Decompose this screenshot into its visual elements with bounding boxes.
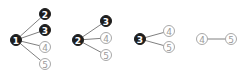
edge-1-2 bbox=[20, 18, 41, 37]
node-2-filled: 2 bbox=[40, 9, 51, 20]
node-5-open: 5 bbox=[226, 34, 237, 45]
node-5-open: 5 bbox=[101, 50, 112, 61]
edges bbox=[20, 18, 225, 61]
node-4-open: 4 bbox=[197, 34, 208, 45]
node-label: 3 bbox=[137, 35, 143, 45]
node-5-open: 5 bbox=[40, 59, 51, 70]
nodes: 12345234534545 bbox=[11, 9, 237, 70]
node-label: 5 bbox=[166, 43, 172, 53]
edge-3-4 bbox=[145, 32, 163, 37]
node-1-filled: 1 bbox=[11, 35, 22, 46]
node-4-open: 4 bbox=[101, 33, 112, 44]
edge-1-5 bbox=[20, 44, 41, 61]
node-4-open: 4 bbox=[164, 26, 175, 37]
node-label: 4 bbox=[166, 27, 172, 37]
node-label: 4 bbox=[103, 34, 109, 44]
node-5-open: 5 bbox=[164, 42, 175, 53]
tree-diagram: 12345234534545 bbox=[0, 0, 245, 75]
edge-2-3 bbox=[83, 24, 102, 37]
node-3-filled: 3 bbox=[40, 25, 51, 36]
edge-2-5 bbox=[83, 43, 101, 53]
node-label: 2 bbox=[42, 10, 48, 20]
node-label: 5 bbox=[228, 35, 234, 45]
node-4-open: 4 bbox=[40, 42, 51, 53]
node-label: 5 bbox=[42, 60, 48, 70]
edge-3-5 bbox=[145, 40, 163, 45]
edge-2-4 bbox=[83, 38, 100, 39]
node-label: 3 bbox=[42, 26, 48, 36]
node-3-filled: 3 bbox=[101, 16, 112, 27]
node-label: 3 bbox=[103, 17, 109, 27]
node-3-filled: 3 bbox=[135, 34, 146, 45]
node-label: 4 bbox=[42, 43, 48, 53]
node-label: 4 bbox=[199, 35, 205, 45]
node-label: 5 bbox=[103, 51, 109, 61]
node-label: 1 bbox=[13, 36, 19, 46]
node-2-filled: 2 bbox=[73, 35, 84, 46]
edge-1-4 bbox=[21, 41, 39, 45]
node-label: 2 bbox=[75, 36, 81, 46]
